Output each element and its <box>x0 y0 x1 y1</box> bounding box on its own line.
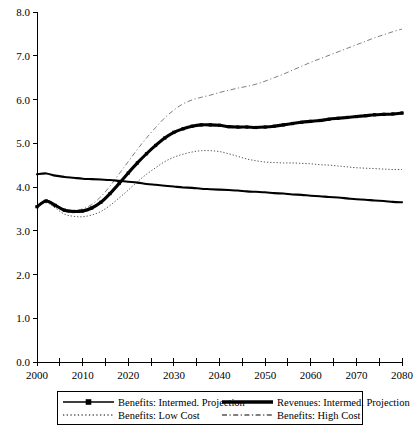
y-tick-label: 6.0 <box>16 94 30 106</box>
series-marker <box>200 123 203 126</box>
chart-container: 0.01.02.03.04.05.06.07.08.0 200020102020… <box>0 0 417 432</box>
y-tick-label: 5.0 <box>16 137 30 149</box>
legend-item[interactable]: Benefits: High Cost <box>222 410 360 421</box>
series-marker <box>346 116 349 119</box>
series-marker <box>291 122 294 125</box>
series-marker <box>35 205 38 208</box>
series-marker <box>264 125 267 128</box>
series-marker <box>127 171 130 174</box>
series-marker <box>63 209 66 212</box>
y-tick-label: 1.0 <box>16 312 30 324</box>
x-tick-label: 2030 <box>163 369 186 381</box>
series-line-revenues-intermed-projection <box>37 173 402 202</box>
series-marker <box>236 125 239 128</box>
series-marker <box>181 127 184 130</box>
x-tick-label: 2020 <box>117 369 140 381</box>
y-axis-tick-labels: 0.01.02.03.04.05.06.07.08.0 <box>16 6 30 368</box>
series-line-benefits-intermed-projection <box>37 113 402 212</box>
series-marker <box>218 124 221 127</box>
series-marker <box>118 182 121 185</box>
legend-label: Revenues: Intermed. Projection <box>277 397 410 408</box>
x-axis-tick-labels: 200020102020203020402050206020702080 <box>26 369 414 381</box>
chart-legend: Benefits: Intermed. ProjectionRevenues: … <box>57 391 410 424</box>
series-marker <box>364 114 367 117</box>
x-tick-label: 2010 <box>72 369 95 381</box>
x-axis: 200020102020203020402050206020702080 <box>26 358 414 381</box>
series-marker <box>382 113 385 116</box>
series-marker <box>45 199 48 202</box>
x-tick-label: 2070 <box>345 369 368 381</box>
series-marker <box>245 125 248 128</box>
x-tick-label: 2000 <box>26 369 49 381</box>
x-tick-label: 2060 <box>300 369 323 381</box>
y-tick-label: 3.0 <box>16 225 30 237</box>
y-tick-label: 4.0 <box>16 181 30 193</box>
series-marker <box>90 206 93 209</box>
projection-line-chart: 0.01.02.03.04.05.06.07.08.0 200020102020… <box>0 0 417 432</box>
series-marker <box>282 123 285 126</box>
legend-item[interactable]: Revenues: Intermed. Projection <box>222 397 410 408</box>
legend-entries: Benefits: Intermed. ProjectionRevenues: … <box>63 397 410 421</box>
series-marker <box>81 209 84 212</box>
series-marker <box>72 210 75 213</box>
series-marker <box>273 125 276 128</box>
data-series-group <box>37 29 402 217</box>
legend-label: Benefits: Low Cost <box>118 410 200 421</box>
y-tick-label: 2.0 <box>16 269 30 281</box>
y-tick-label: 0.0 <box>16 356 30 368</box>
series-marker <box>355 115 358 118</box>
legend-item[interactable]: Benefits: Intermed. Projection <box>63 397 246 408</box>
series-marker <box>163 136 166 139</box>
series-marker <box>209 123 212 126</box>
x-tick-label: 2080 <box>391 369 414 381</box>
series-marker <box>172 131 175 134</box>
series-marker <box>154 144 157 147</box>
series-marker <box>337 117 340 120</box>
y-axis: 0.01.02.03.04.05.06.07.08.0 <box>16 6 38 368</box>
legend-label: Benefits: High Cost <box>277 410 360 421</box>
series-marker <box>300 121 303 124</box>
series-marker <box>227 125 230 128</box>
x-tick-label: 2050 <box>254 369 277 381</box>
series-marker <box>99 201 102 204</box>
series-marker <box>254 126 257 129</box>
series-marker <box>108 192 111 195</box>
series-marker <box>327 118 330 121</box>
series-marker <box>309 120 312 123</box>
y-tick-label: 7.0 <box>16 50 30 62</box>
legend-item[interactable]: Benefits: Low Cost <box>63 410 200 421</box>
series-marker <box>54 204 57 207</box>
y-tick-label: 8.0 <box>16 6 30 18</box>
series-marker <box>391 112 394 115</box>
series-marker <box>318 119 321 122</box>
series-marker <box>145 152 148 155</box>
series-marker <box>400 111 403 114</box>
x-tick-label: 2040 <box>209 369 232 381</box>
series-marker <box>191 125 194 128</box>
series-marker <box>136 161 139 164</box>
legend-swatch-marker <box>86 399 92 405</box>
series-line-benefits-high-cost <box>37 29 402 210</box>
series-marker <box>373 113 376 116</box>
